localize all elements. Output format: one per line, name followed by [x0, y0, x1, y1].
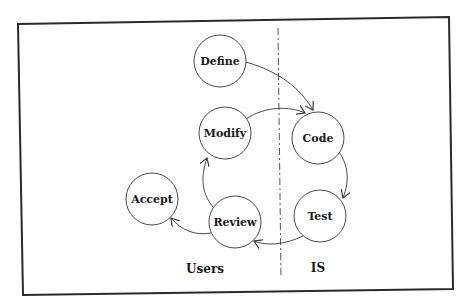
edge-define-to-code [246, 62, 313, 110]
node-test: Test [294, 190, 346, 242]
define-label: Define [200, 55, 240, 68]
edge-test-to-review [254, 236, 303, 244]
region-divider [278, 28, 281, 278]
code-label: Code [303, 132, 334, 145]
modify-label: Modify [204, 127, 247, 140]
accept-label: Accept [130, 193, 174, 206]
test-label: Test [307, 210, 333, 223]
review-label: Review [213, 216, 257, 229]
edge-code-to-test [339, 152, 347, 198]
edge-review-to-accept [171, 218, 211, 234]
diagram-canvas: Define Modify Code Test Review Accept Us… [0, 0, 468, 307]
edge-review-to-modify [203, 158, 214, 208]
region-label-users: Users [186, 262, 224, 276]
node-accept: Accept [126, 173, 178, 225]
region-label-is: IS [311, 261, 325, 275]
node-code: Code [292, 112, 344, 164]
node-modify: Modify [199, 107, 251, 159]
node-review: Review [209, 196, 261, 248]
node-define: Define [194, 35, 246, 87]
edge-modify-to-code [246, 108, 305, 119]
